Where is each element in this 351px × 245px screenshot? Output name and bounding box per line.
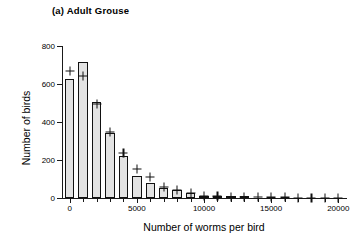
y-axis-tick (57, 84, 62, 85)
expected-value-marker (146, 173, 155, 182)
expected-value-marker (173, 186, 182, 195)
x-axis-tick-label: 5000 (128, 204, 146, 213)
expected-value-marker (253, 193, 262, 202)
x-axis-tick-label: 0 (67, 204, 71, 213)
expected-value-marker (132, 165, 141, 174)
expected-value-marker (159, 182, 168, 191)
expected-value-marker (106, 127, 115, 136)
y-axis-tick-label: 0 (51, 194, 55, 203)
y-axis-tick-label: 200 (42, 156, 55, 165)
expected-value-marker (119, 149, 128, 158)
x-axis-label: Number of worms per bird (63, 221, 345, 233)
expected-value-marker (92, 99, 101, 108)
x-axis-tick-label: 20000 (327, 204, 349, 213)
histogram-bar (65, 79, 74, 198)
y-axis-tick (57, 198, 62, 199)
page-title: (a) Adult Grouse (52, 5, 129, 16)
expected-value-marker (200, 191, 209, 200)
y-axis-tick (57, 122, 62, 123)
y-axis-label: Number of birds (20, 53, 32, 203)
histogram-bar (92, 102, 101, 198)
expected-value-marker (240, 193, 249, 202)
x-axis-tick (137, 199, 138, 203)
y-axis-tick-label: 400 (42, 118, 55, 127)
x-axis-tick-minor (191, 199, 192, 202)
y-axis-tick-label: 600 (42, 80, 55, 89)
expected-value-marker (280, 193, 289, 202)
expected-value-marker (294, 193, 303, 202)
expected-value-marker (79, 72, 88, 81)
expected-value-marker (334, 193, 343, 202)
expected-value-marker (320, 193, 329, 202)
x-axis-tick-minor (110, 199, 111, 202)
expected-value-marker (267, 193, 276, 202)
plot-area (63, 46, 345, 198)
x-axis-tick (70, 199, 71, 203)
histogram-bar (119, 156, 128, 198)
chart-figure: (a) Adult Grouse 0200400600800 050001000… (0, 0, 351, 245)
y-axis-tick-label: 800 (42, 42, 55, 51)
x-axis-tick-minor (97, 199, 98, 202)
x-axis-tick-minor (150, 199, 151, 202)
y-axis-tick (57, 46, 62, 47)
histogram-bar (146, 183, 155, 198)
histogram-bar (132, 176, 141, 198)
x-axis-tick-minor (164, 199, 165, 202)
histogram-bar (105, 133, 114, 198)
expected-value-marker (65, 67, 74, 76)
expected-value-marker (307, 193, 316, 202)
x-axis-tick-label: 15000 (260, 204, 282, 213)
x-axis-tick-label: 10000 (193, 204, 215, 213)
y-axis-tick (57, 160, 62, 161)
expected-value-marker (226, 192, 235, 201)
histogram-bar (78, 62, 87, 198)
expected-value-marker (213, 192, 222, 201)
x-axis-tick-minor (177, 199, 178, 202)
x-axis-tick-minor (123, 199, 124, 202)
x-axis-tick-minor (83, 199, 84, 202)
expected-value-marker (186, 189, 195, 198)
